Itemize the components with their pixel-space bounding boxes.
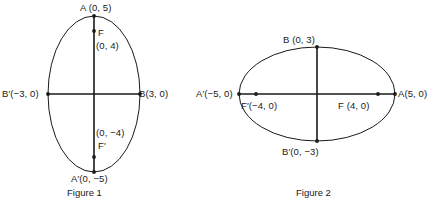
figure-board: A (0, 5) F (0, 4) B′(−3, 0) B(3, 0) (0, … [0, 0, 439, 204]
figure-1-graphic [46, 14, 142, 174]
figure-2-point-F-prime [254, 92, 258, 96]
figure-2-point-B [315, 45, 319, 49]
figure-2-point-A-prime [237, 92, 241, 96]
figure-2-point-F [376, 92, 380, 96]
figure-2-label-focus-right: F (4, 0) [338, 100, 369, 111]
figure-2-point-B-prime [315, 139, 319, 143]
figure-2-point-A [393, 92, 397, 96]
figure-2-label-covertex-top: B (0, 3) [283, 34, 315, 45]
figure-2-label-vertex-right: A(5, 0) [398, 88, 427, 99]
figure-1-point-B-prime [46, 92, 50, 96]
figure-1-point-A [92, 14, 96, 18]
figures-vector-layer [0, 0, 439, 204]
figure-1-label-covertex-right: B(3, 0) [139, 88, 168, 99]
figure-1-point-F-prime [92, 155, 96, 159]
figure-1-label-vertex-top: A (0, 5) [80, 2, 111, 13]
figure-1-label-focus-top-value: (0, 4) [96, 40, 119, 51]
figure-2-label-focus-left: F′(−4, 0) [241, 100, 277, 111]
figure-1-label-covertex-left: B′(−3, 0) [2, 88, 39, 99]
figure-1-label-vertex-bottom: A′(0, −5) [71, 173, 108, 184]
figure-1-point-F [92, 29, 96, 33]
figure-1-label-focus-bottom-name: F′ [98, 140, 106, 151]
figure-2-graphic [237, 45, 397, 143]
figure-1-label-focus-bottom-value: (0, −4) [96, 127, 124, 138]
figure-2-label-covertex-bottom: B′(0, −3) [282, 146, 319, 157]
figure-2-caption: Figure 2 [296, 187, 331, 198]
figure-1-caption: Figure 1 [67, 187, 102, 198]
figure-1-label-focus-top-name: F [98, 27, 104, 38]
figure-2-label-vertex-left: A′(−5, 0) [196, 88, 233, 99]
